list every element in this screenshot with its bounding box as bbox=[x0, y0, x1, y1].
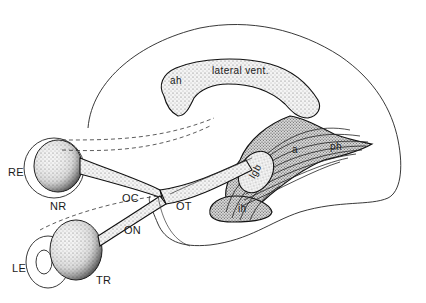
right-eye bbox=[24, 138, 84, 198]
label-lateral-ventricle: lateral vent. bbox=[212, 65, 269, 76]
dashed-projection-upper bbox=[62, 118, 214, 140]
left-eye bbox=[26, 220, 102, 288]
label-optic-chiasm: OC bbox=[122, 192, 139, 204]
visual-pathway-diagram: lateral vent. ah ph a lgb ih RE NR LE TR… bbox=[0, 0, 426, 303]
label-posterior-horn: ph bbox=[330, 141, 342, 152]
dashed-projection-lower bbox=[62, 126, 210, 151]
label-optic-nerve: ON bbox=[124, 224, 141, 236]
label-anterior-horn: ah bbox=[170, 75, 182, 86]
label-nasal-retina: NR bbox=[50, 200, 67, 212]
label-inferior-horn: ih bbox=[238, 203, 247, 214]
label-right-eye: RE bbox=[8, 166, 24, 178]
label-left-eye: LE bbox=[12, 262, 26, 274]
label-temporal-retina: TR bbox=[96, 274, 111, 286]
label-optic-tract: OT bbox=[176, 200, 192, 212]
label-radiation: a bbox=[292, 144, 298, 155]
right-optic-nerve bbox=[80, 158, 162, 198]
